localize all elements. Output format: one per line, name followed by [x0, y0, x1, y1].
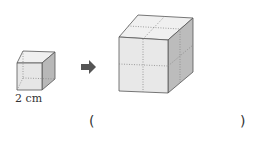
large-cube — [119, 15, 193, 93]
small-cube — [17, 51, 55, 90]
small-cube-edge-label: 2 cm — [15, 92, 42, 105]
answer-open-paren: ( — [89, 113, 94, 129]
answer-close-paren: ) — [240, 113, 245, 129]
answer-blank[interactable] — [100, 113, 230, 129]
arrow-right-icon — [81, 60, 96, 74]
